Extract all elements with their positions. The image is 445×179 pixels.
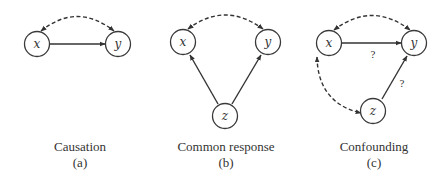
panel-causation: x y [25, 17, 131, 57]
dashed-association-arc-x-y [334, 16, 410, 31]
caption-letter: (c) [340, 155, 409, 171]
node-x: x [171, 30, 196, 55]
caption-title: Common response [177, 139, 274, 155]
node-z: z [361, 99, 386, 124]
dashed-association-arc-x-y [188, 15, 263, 29]
question-label-x-y: ? [371, 48, 376, 60]
node-x-label: x [180, 35, 187, 49]
node-y: y [256, 30, 281, 55]
node-z-label: z [369, 104, 377, 118]
node-y-label: y [114, 37, 122, 51]
caption-letter: (b) [177, 155, 274, 171]
node-x: x [25, 32, 50, 57]
dashed-association-arc-x-y [41, 17, 114, 32]
node-x-label: x [326, 36, 333, 50]
node-y-label: y [264, 35, 272, 49]
caption-common-response: Common response (b) [177, 139, 274, 171]
node-x: x [317, 31, 342, 56]
caption-title: Causation [54, 139, 106, 155]
caption-letter: (a) [54, 155, 106, 171]
panel-confounding: ? ? x y z [317, 16, 427, 124]
arrow-z-to-y [232, 55, 261, 104]
node-y-label: y [410, 36, 418, 50]
node-x-label: x [34, 37, 41, 51]
dashed-association-arc-x-z [317, 57, 361, 113]
node-z: z [213, 104, 238, 129]
node-y: y [402, 31, 427, 56]
caption-confounding: Confounding (c) [340, 139, 409, 171]
panel-common-response: x y z [171, 15, 281, 129]
caption-causation: Causation (a) [54, 139, 106, 171]
node-z-label: z [221, 109, 229, 123]
caption-title: Confounding [340, 139, 409, 155]
node-y: y [106, 32, 131, 57]
arrow-z-to-x [190, 55, 218, 104]
question-label-z-y: ? [400, 77, 405, 89]
